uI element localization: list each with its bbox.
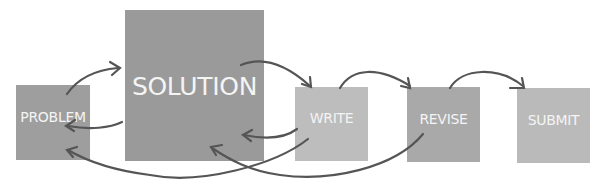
- arrow-revise-to-submit: [450, 72, 524, 88]
- node-submit: SUBMIT: [517, 88, 590, 163]
- node-problem: PROBLEM: [16, 85, 90, 160]
- node-write-label: WRITE: [310, 110, 354, 126]
- node-revise: REVISE: [407, 87, 480, 162]
- node-write: WRITE: [295, 87, 368, 161]
- node-revise-label: REVISE: [419, 111, 467, 127]
- node-submit-label: SUBMIT: [528, 112, 580, 128]
- arrow-write-to-revise: [340, 72, 410, 88]
- node-problem-label: PROBLEM: [20, 109, 85, 125]
- node-solution: SOLUTION: [125, 10, 264, 161]
- node-solution-label: SOLUTION: [132, 72, 257, 101]
